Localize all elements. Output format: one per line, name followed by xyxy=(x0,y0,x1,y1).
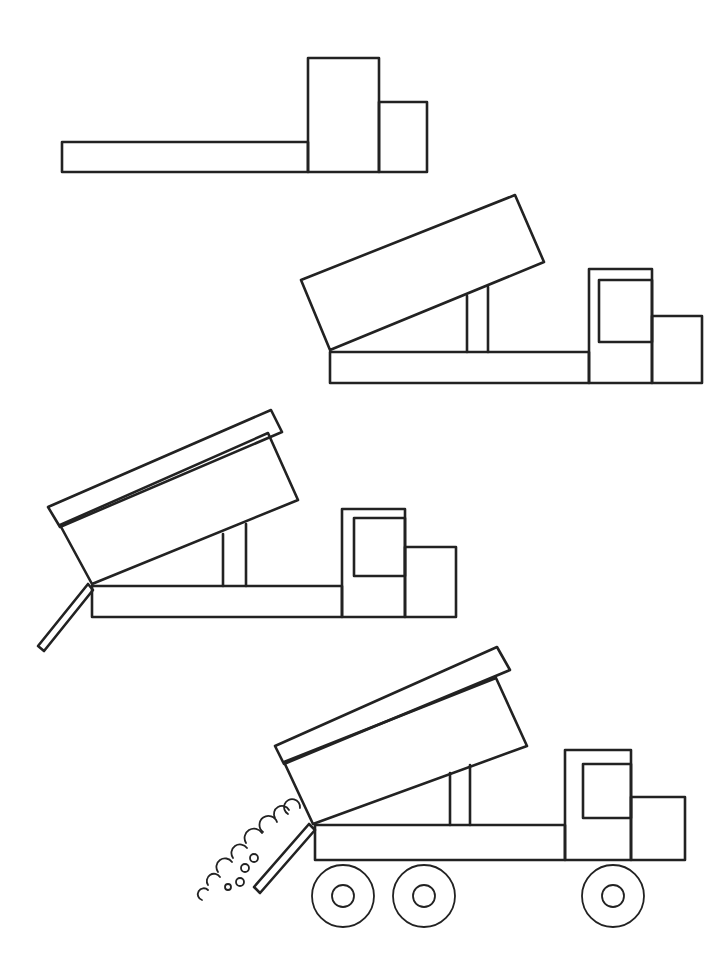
step-3-drawing xyxy=(38,410,456,651)
dump-truck-tutorial xyxy=(0,0,728,972)
wheels xyxy=(312,865,644,927)
step-2-drawing xyxy=(301,195,702,383)
step-4-drawing xyxy=(198,647,685,927)
step-1-drawing xyxy=(62,58,427,172)
dumped-load xyxy=(198,799,300,900)
